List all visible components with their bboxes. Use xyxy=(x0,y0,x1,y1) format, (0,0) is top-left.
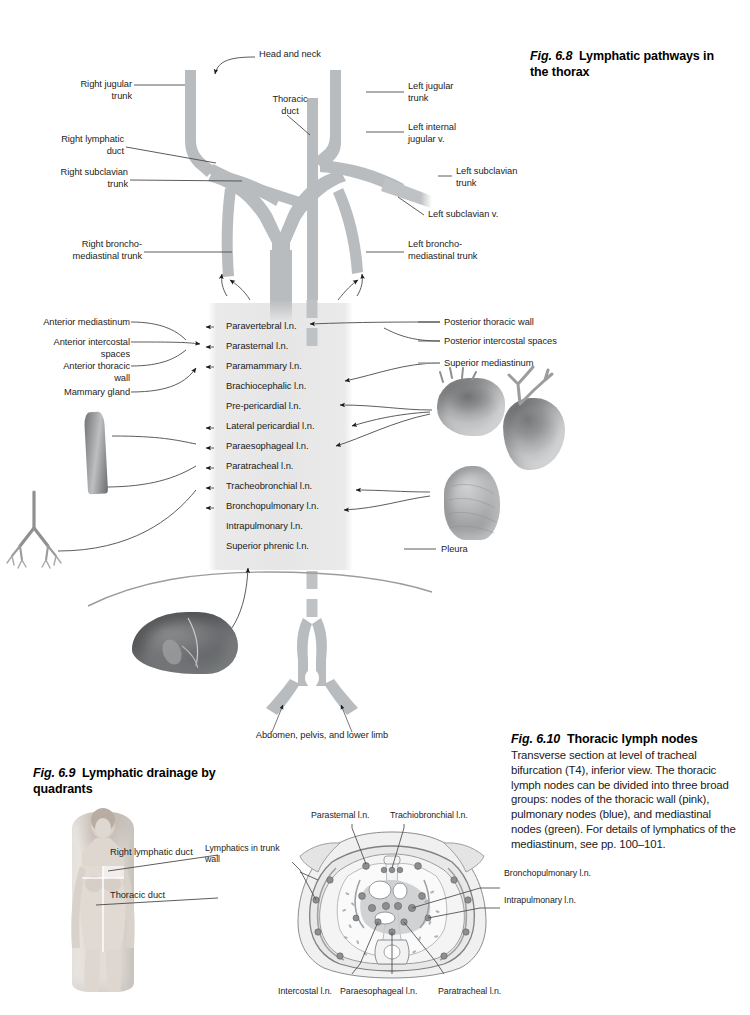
label-fig610-bronchopulmonary: Bronchopulmonary l.n. xyxy=(504,868,634,879)
label-fig610-paratracheal: Paratracheal l.n. xyxy=(438,986,534,997)
label-fig610-trachiobronchial: Trachiobronchial l.n. xyxy=(390,810,494,821)
transverse-section-image xyxy=(0,0,750,1015)
label-fig610-paraesophageal: Paraesophageal l.n. xyxy=(340,986,444,997)
label-fig610-parasternal: Parasternal l.n. xyxy=(311,810,397,821)
textbook-page: Fig. 6.8 Lymphatic pathways in the thora… xyxy=(0,0,750,1015)
label-fig610-lymphatics-trunk-wall: Lymphatics in trunk wall xyxy=(205,843,293,865)
label-fig610-intrapulmonary: Intrapulmonary l.n. xyxy=(504,895,634,906)
